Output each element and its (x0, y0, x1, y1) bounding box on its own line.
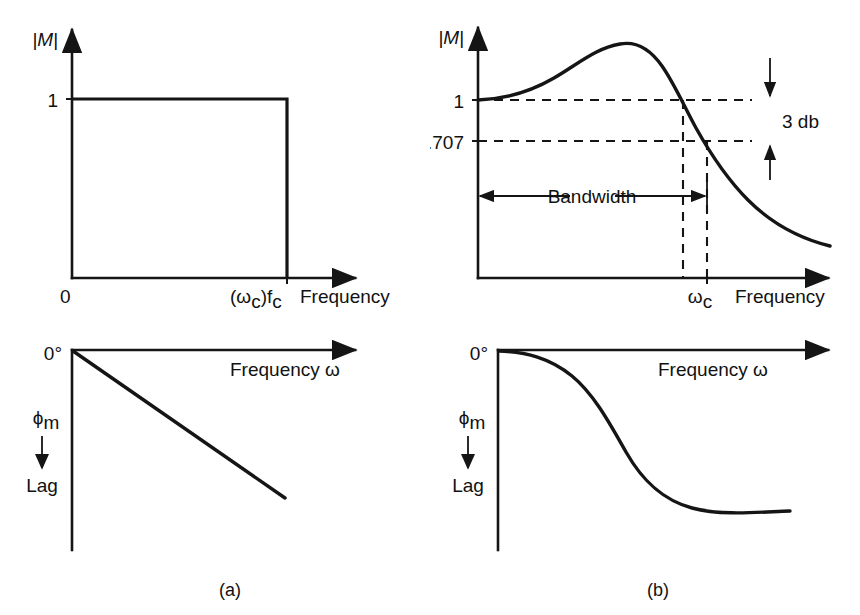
lag-label: Lag (26, 475, 58, 496)
y-axis-label: |M| (438, 27, 464, 48)
phi-glyph: ϕ (33, 407, 44, 428)
y-axis-label: |M| (32, 29, 58, 50)
phi-glyph: ϕ (459, 407, 470, 428)
three-db-label: 3 db (782, 111, 819, 132)
y-axis-zero-label: 0° (470, 343, 488, 364)
chart-magnitude-practical: 3 db Bandwidth 1 0.707 |M| ωc Frequency (430, 0, 860, 310)
svg-text:Frequency ω: Frequency ω (230, 359, 340, 380)
phi-sub-m: m (43, 412, 59, 433)
bandwidth-label: Bandwidth (548, 186, 637, 207)
x-axis-label-omega: ω (753, 359, 768, 380)
y-tick-label-1: 1 (453, 91, 464, 112)
x-axis-label-text: Frequency (658, 359, 748, 380)
caption-b: (b) (647, 580, 669, 600)
x-axis-label-text: Frequency (230, 359, 320, 380)
phi-sub-m: m (469, 412, 485, 433)
x-axis-label: Frequency ω (658, 359, 768, 380)
svg-text:Frequency ω: Frequency ω (658, 359, 768, 380)
svg-text:ϕm: ϕm (459, 407, 485, 433)
phase-symbol-label: ϕm (459, 407, 485, 433)
x-axis-label-omega: ω (325, 359, 340, 380)
svg-text:ϕm: ϕm (33, 407, 59, 433)
chart-phase-ideal: 0° ϕm Lag Frequency ω (a) (0, 300, 430, 615)
y-tick-label-1: 1 (47, 90, 58, 111)
chart-magnitude-ideal: 1 0 |M| (ωc)fc Frequency (0, 0, 430, 310)
y-tick-label-0707: 0.707 (430, 132, 464, 153)
practical-magnitude-curve (478, 43, 830, 246)
figure-root: 1 0 |M| (ωc)fc Frequency (0, 0, 860, 615)
x-axis-label: Frequency ω (230, 359, 340, 380)
chart-phase-practical: 0° ϕm Lag Frequency ω (b) (430, 300, 860, 615)
ideal-magnitude-curve (72, 99, 287, 278)
phase-symbol-label: ϕm (33, 407, 59, 433)
y-axis-zero-label: 0° (44, 343, 62, 364)
lag-label: Lag (452, 475, 484, 496)
caption-a: (a) (219, 580, 241, 600)
